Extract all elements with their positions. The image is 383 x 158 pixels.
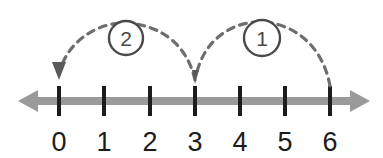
jump-arc-2-arrowhead-icon xyxy=(52,62,66,80)
tick-label-4: 4 xyxy=(232,127,247,157)
jump-arc-1-group: 1 xyxy=(192,20,330,86)
tick-label-1: 1 xyxy=(96,127,111,157)
arrow-right-icon xyxy=(350,90,370,112)
jump-arc-2-badge-label: 2 xyxy=(120,27,132,50)
jump-arc-2-group: 2 xyxy=(52,21,195,80)
tick-label-2: 2 xyxy=(142,127,157,157)
tick-label-0: 0 xyxy=(51,127,66,157)
tick-labels-group: 0 1 2 3 4 5 6 xyxy=(51,127,337,157)
number-line-canvas: 0 1 2 3 4 5 6 2 1 xyxy=(0,0,383,158)
jump-arc-1-badge-label: 1 xyxy=(256,27,268,50)
number-line-figure: 0 1 2 3 4 5 6 2 1 xyxy=(0,0,383,158)
tick-label-6: 6 xyxy=(322,127,337,157)
tick-label-5: 5 xyxy=(277,127,292,157)
tick-label-3: 3 xyxy=(187,127,202,157)
arrow-left-icon xyxy=(18,90,38,112)
